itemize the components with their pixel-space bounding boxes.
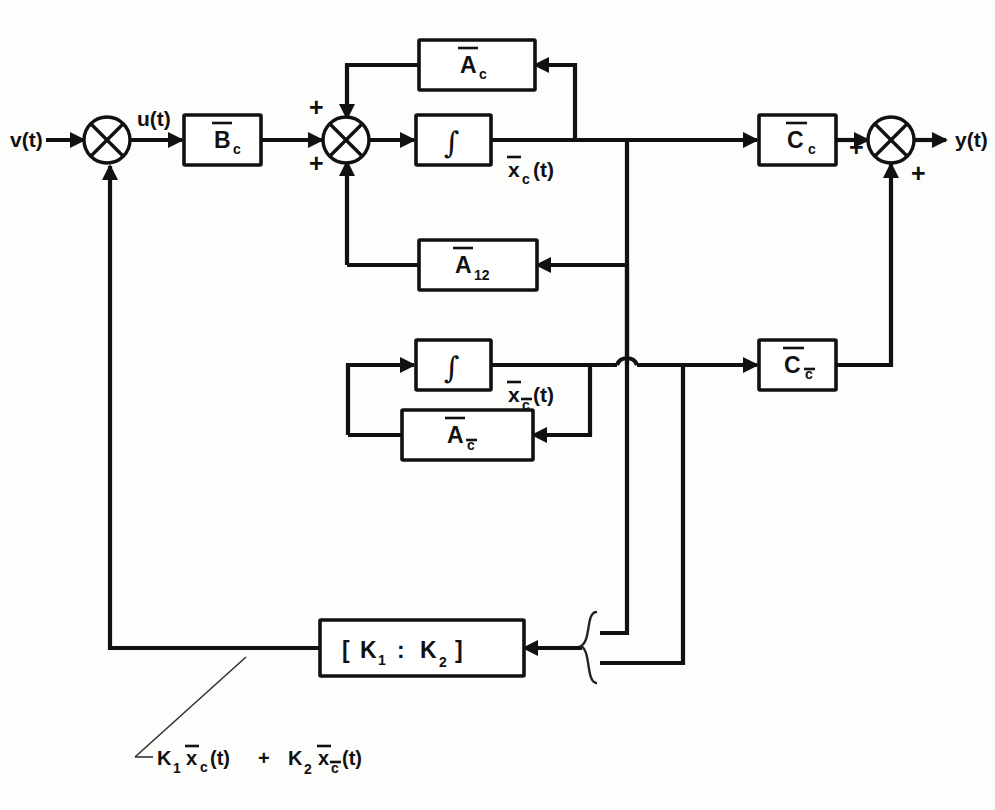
arrow-u — [168, 132, 184, 148]
block-a-12-subscript: 12 — [474, 267, 490, 283]
annotation-x1-subscript: c — [200, 759, 208, 775]
gain-k2-label: K — [420, 637, 437, 663]
block-a-cbar-label: A — [447, 422, 464, 448]
annotation-plus: + — [258, 747, 270, 769]
block-c-c-label: C — [787, 127, 804, 153]
annotation-x2: x — [318, 747, 329, 769]
label-state-xcbar: x — [508, 383, 520, 406]
annotation-x2-paren: (t) — [342, 747, 362, 769]
gain-k2-subscript: 2 — [439, 654, 447, 670]
sign-summer-output-left: + — [849, 133, 864, 161]
wire-xcbar-to-a12 — [537, 265, 627, 365]
wire-ac-to-summer — [347, 65, 419, 118]
arrow-summer-to-int1 — [400, 132, 416, 148]
label-state-xc-subscript: c — [522, 171, 530, 187]
arrow-feedback-into-summer — [102, 164, 118, 180]
integrator-1-symbol: ∫ — [444, 125, 460, 160]
annotation-x1-paren: (t) — [210, 747, 230, 769]
block-a-c-label: A — [460, 52, 477, 78]
label-state-xcbar-paren: (t) — [533, 383, 554, 406]
arrow-xc-to-cc — [743, 132, 759, 148]
arrow-xcbar-to-ccbar — [743, 357, 759, 373]
arrow-into-int2 — [400, 357, 416, 373]
block-b-c-label: B — [214, 127, 231, 153]
wire-xc-tap-to-brace — [600, 140, 627, 633]
block-a-12-label: A — [455, 252, 472, 278]
wire-ccbar-to-outsummer — [836, 164, 891, 365]
gain-bracket-close: ] — [455, 637, 463, 663]
block-b-c-subscript: c — [233, 141, 241, 157]
integrator-2-symbol: ∫ — [444, 350, 460, 385]
gain-bracket-open: [ — [342, 637, 350, 663]
sign-summer-output-bottom: + — [911, 159, 926, 187]
arrow-output-y — [932, 132, 948, 148]
label-control-u: u(t) — [137, 107, 171, 130]
annotation-leader-line — [135, 657, 246, 757]
wire-gain-feedback — [110, 166, 320, 648]
block-c-cbar-label: C — [784, 352, 801, 378]
label-state-xc: x — [508, 158, 520, 181]
block-c-c-subscript: c — [808, 141, 816, 157]
gain-colon: : — [397, 637, 405, 663]
block-a-c-subscript: c — [479, 66, 487, 82]
sign-summer-state-top: + — [309, 93, 324, 121]
wire-xcbar-tap-to-brace — [600, 365, 683, 663]
signal-gather-brace — [581, 612, 596, 683]
label-state-xc-paren: (t) — [533, 158, 554, 181]
sign-summer-state-left: + — [309, 149, 324, 177]
block-diagram-canvas: B c A c ∫ A 12 ∫ A c C c C c [ K 1 : K 2… — [0, 0, 995, 810]
block-diagram-svg: B c A c ∫ A 12 ∫ A c C c C c [ K 1 : K 2… — [0, 0, 995, 810]
annotation-k2: K — [288, 747, 303, 769]
gain-k1-subscript: 1 — [378, 652, 386, 668]
annotation-x1: x — [186, 747, 197, 769]
label-input-v: v(t) — [10, 128, 43, 151]
wire-ac-feedback-up — [535, 65, 575, 140]
annotation-k2-subscript: 2 — [304, 761, 312, 777]
annotation-k1-subscript: 1 — [173, 760, 181, 776]
gain-k1-label: K — [360, 637, 377, 663]
label-output-y: y(t) — [955, 128, 988, 151]
annotation-k1: K — [157, 747, 172, 769]
